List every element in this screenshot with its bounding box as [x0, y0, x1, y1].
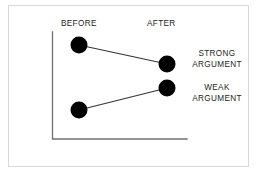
weak-argument-before-marker [71, 102, 88, 119]
series-label-weak-line1: WEAK [186, 83, 248, 94]
series-label-strong-argument: STRONG ARGUMENT [186, 49, 248, 70]
weak-argument-after-marker [159, 80, 176, 97]
column-header-after: AFTER [147, 19, 176, 28]
column-header-before: BEFORE [61, 19, 97, 28]
series-label-strong-line2: ARGUMENT [186, 60, 248, 71]
series-label-weak-line2: ARGUMENT [186, 94, 248, 105]
slope-chart-figure: BEFORE AFTER STRONG ARGUMENT WEAK ARGUME… [0, 0, 258, 176]
series-label-strong-line1: STRONG [186, 49, 248, 60]
series-label-weak-argument: WEAK ARGUMENT [186, 83, 248, 104]
strong-argument-after-marker [159, 56, 176, 73]
weak-argument-connector [79, 88, 167, 110]
strong-argument-connector [79, 45, 167, 64]
strong-argument-before-marker [71, 37, 88, 54]
